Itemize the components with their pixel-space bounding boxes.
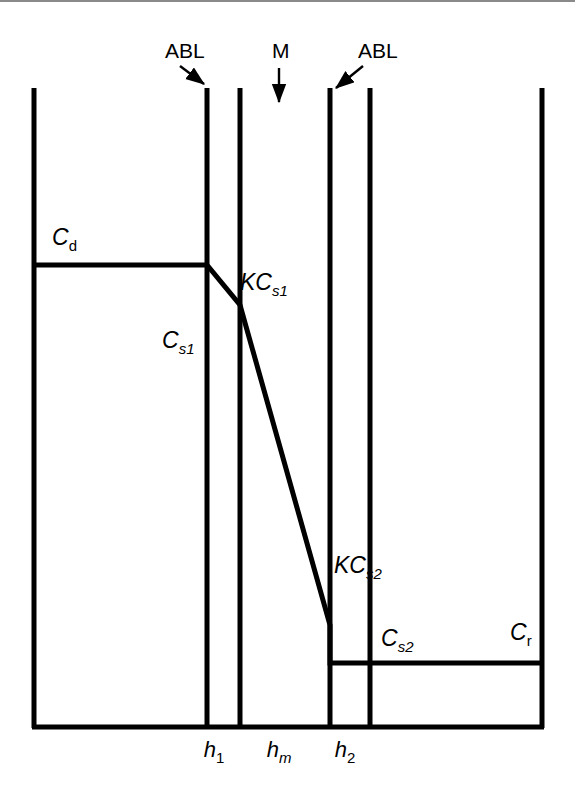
abl-right-label: ABL — [358, 39, 398, 62]
axis-label-hm: hm — [267, 737, 292, 766]
label-kcs1: KCs1 — [240, 269, 288, 299]
concentration-profile-diagram: ABL M ABL Cd Cs1 KCs1 KCs2 Cs2 Cr — [0, 0, 575, 789]
axis-label-h2: h2 — [335, 737, 356, 766]
abl-left-arrow — [180, 66, 204, 84]
axis-label-h1: h1 — [204, 737, 225, 766]
figure-container: ABL M ABL Cd Cs1 KCs1 KCs2 Cs2 Cr — [0, 0, 575, 789]
membrane-label: M — [272, 39, 290, 62]
concentration-profile-curve — [34, 265, 542, 663]
label-cs1: Cs1 — [162, 327, 194, 357]
abl-left-label: ABL — [165, 39, 205, 62]
label-cr: Cr — [510, 619, 532, 649]
abl-right-arrow — [336, 66, 363, 88]
label-kcs2: KCs2 — [334, 552, 382, 582]
label-cd: Cd — [52, 224, 77, 254]
label-cs2: Cs2 — [381, 625, 414, 655]
